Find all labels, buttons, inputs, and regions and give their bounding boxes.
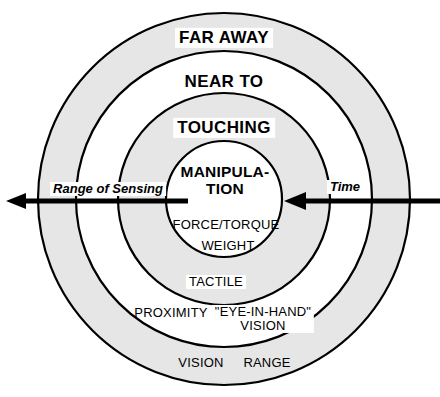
axis-label-range-of-sensing: Range of Sensing bbox=[50, 182, 166, 196]
sensor-label-range: RANGE bbox=[243, 356, 290, 370]
zone-label-manipulation-line1: MANIPULA- bbox=[181, 163, 270, 180]
sensor-label-eye-in-hand-line1: "EYE-IN-HAND" bbox=[212, 305, 314, 319]
sensor-label-eye-in-hand-vision: "EYE-IN-HAND" VISION bbox=[212, 305, 314, 333]
zone-label-far-away: FAR AWAY bbox=[175, 28, 273, 48]
zone-label-manipulation-line2: TION bbox=[181, 180, 270, 197]
sensor-label-eye-in-hand-line2: VISION bbox=[212, 319, 314, 333]
sensor-label-tactile: TACTILE bbox=[186, 275, 246, 289]
concentric-zone-diagram: FAR AWAY NEAR TO TOUCHING MANIPULA- TION… bbox=[0, 0, 440, 397]
sensor-label-vision: VISION bbox=[178, 356, 223, 370]
sensor-label-weight: WEIGHT bbox=[201, 239, 254, 253]
axis-label-time: Time bbox=[327, 180, 363, 194]
zone-label-touching: TOUCHING bbox=[173, 118, 275, 138]
sensor-label-force-torque: FORCE/TORQUE bbox=[173, 218, 280, 232]
rings-svg bbox=[0, 0, 440, 397]
zone-label-near-to: NEAR TO bbox=[181, 72, 268, 92]
sensor-label-proximity: PROXIMITY bbox=[134, 306, 207, 320]
zone-label-manipulation: MANIPULA- TION bbox=[181, 163, 270, 198]
